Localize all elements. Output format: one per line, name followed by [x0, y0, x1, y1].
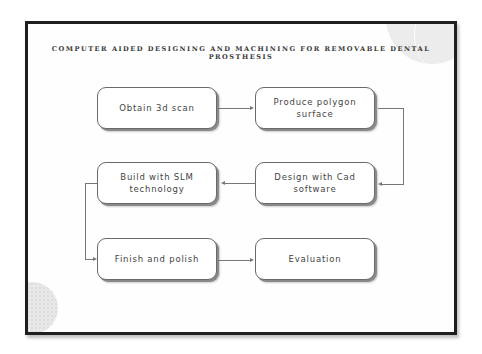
slide-title: COMPUTER AIDED DESIGNING AND MACHINING F…	[28, 45, 454, 61]
connector-2-3-top	[378, 108, 404, 109]
step-evaluation: Evaluation	[255, 238, 375, 280]
arrow-right-icon	[93, 257, 97, 261]
connector-1-2	[219, 108, 251, 109]
connector-4-5-top	[85, 183, 97, 184]
arrow-right-icon	[250, 106, 254, 110]
decorative-circle-bottom-left	[25, 282, 58, 334]
arrow-left-icon	[221, 181, 225, 185]
slide-frame: COMPUTER AIDED DESIGNING AND MACHINING F…	[25, 21, 457, 335]
step-design-with-cad: Design with Cad software	[255, 162, 375, 204]
step-build-with-slm: Build with SLM technology	[97, 162, 217, 204]
connector-3-4	[224, 183, 255, 184]
connector-4-5-vertical	[85, 183, 86, 260]
step-label: Evaluation	[289, 253, 342, 265]
arrow-left-icon	[378, 182, 382, 186]
step-produce-polygon-surface: Produce polygon surface	[255, 87, 375, 129]
step-finish-and-polish: Finish and polish	[97, 238, 217, 280]
connector-2-3-bottom	[381, 184, 404, 185]
arrow-right-icon	[250, 258, 254, 262]
connector-5-6	[219, 260, 251, 261]
step-label: Obtain 3d scan	[119, 102, 194, 114]
connector-2-3-vertical	[403, 108, 404, 184]
step-label: Produce polygon surface	[262, 96, 368, 120]
step-label: Finish and polish	[115, 253, 199, 265]
step-label: Build with SLM technology	[104, 171, 210, 195]
step-label: Design with Cad software	[262, 171, 368, 195]
step-obtain-3d-scan: Obtain 3d scan	[97, 87, 217, 129]
